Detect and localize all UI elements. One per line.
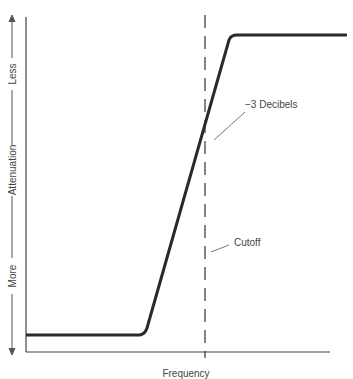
label-frequency: Frequency	[162, 368, 209, 379]
label-more: More	[7, 264, 18, 287]
label-less: Less	[7, 63, 18, 84]
cutoff-leader	[211, 245, 229, 252]
response-curve	[26, 35, 347, 335]
label-cutoff: Cutoff	[234, 237, 261, 248]
filter-response-diagram: Less Attenuation More −3 Decibels Cutoff…	[0, 0, 353, 379]
label-attenuation: Attenuation	[7, 145, 18, 196]
label-db: −3 Decibels	[245, 99, 298, 110]
db-leader	[214, 112, 245, 140]
